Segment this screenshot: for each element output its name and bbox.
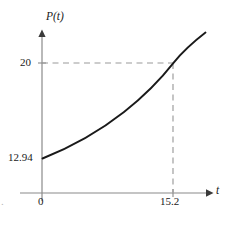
y-tick-label-12-94: 12.94 — [8, 152, 33, 163]
y-axis-arrowhead — [38, 30, 45, 38]
x-tick-label-15-2: 15.2 — [160, 196, 179, 207]
x-axis-arrowhead — [206, 189, 214, 197]
figure-container: P(t) t 20 12.94 0 15.2 . — [0, 0, 232, 225]
y-tick-label-20: 20 — [20, 57, 31, 68]
y-axis-label: P(t) — [46, 11, 64, 23]
curve-p-of-t — [43, 33, 206, 159]
x-axis-label: t — [216, 185, 219, 197]
graph-canvas — [0, 0, 232, 225]
origin-label: 0 — [38, 196, 44, 207]
margin-artifact: . — [1, 196, 4, 207]
